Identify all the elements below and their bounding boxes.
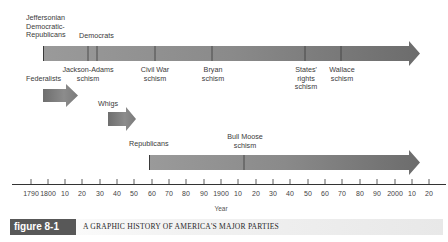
figure-title: A GRAPHIC HISTORY OF AMERICA'S MAJOR PAR…: [83, 219, 279, 235]
axis-tick-label: 10: [234, 190, 242, 197]
whigs-arrow: [108, 107, 136, 131]
axis-tick-label: 20: [78, 190, 86, 197]
axis-tick-label: 80: [182, 190, 190, 197]
axis-tick-label: 10: [61, 190, 69, 197]
republicans-bar: [149, 150, 420, 175]
label-line: schism: [295, 83, 317, 92]
axis-title: Year: [214, 205, 227, 212]
axis-tick-label: 20: [252, 190, 260, 197]
label-line: schism: [329, 75, 354, 84]
label-line: Republicans: [26, 31, 66, 40]
wallace-label: Wallace schism: [329, 66, 354, 83]
axis-tick-label: 50: [130, 190, 138, 197]
axis-tick-label: 40: [286, 190, 294, 197]
axis-tick-label: 10: [408, 190, 416, 197]
axis-tick-label: 30: [96, 190, 104, 197]
bull-moose-label: Bull Moose schism: [227, 133, 263, 150]
jackson-adams-label: Jackson-Adams schism: [62, 66, 113, 83]
axis-tick-label: 1900: [213, 190, 229, 197]
axis-tick-label: 50: [304, 190, 312, 197]
label-line: schism: [202, 75, 224, 84]
axis-tick-label: 20: [425, 190, 433, 197]
axis-tick-label: 70: [165, 190, 173, 197]
jeffersonian-label: Jeffersonian Democratic- Republicans: [26, 14, 66, 40]
axis-tick-label: 90: [200, 190, 208, 197]
states-rights-label: States' rights schism: [295, 66, 317, 92]
civil-war-label: Civil War schism: [141, 66, 169, 83]
federalists-arrow: [43, 84, 78, 107]
axis-tick-label: 60: [321, 190, 329, 197]
axis-tick-label: 1800: [40, 190, 56, 197]
axis-tick-label: 1790: [23, 190, 39, 197]
bryan-label: Bryan schism: [202, 66, 224, 83]
figure-caption: figure 8-1 A GRAPHIC HISTORY OF AMERICA'…: [10, 219, 443, 235]
label-line: schism: [141, 75, 169, 84]
axis-tick-label: 70: [338, 190, 346, 197]
axis-tick-label: 90: [373, 190, 381, 197]
label-line: schism: [227, 142, 263, 151]
year-axis: [12, 179, 446, 185]
whigs-label: Whigs: [98, 100, 118, 109]
republicans-label: Republicans: [129, 140, 169, 149]
figure-label: figure 8-1: [10, 219, 76, 235]
axis-tick-label: 2000: [387, 190, 403, 197]
label-line: schism: [62, 75, 113, 84]
axis-tick-label: 80: [356, 190, 364, 197]
axis-tick-label: 30: [269, 190, 277, 197]
axis-tick-label: 60: [148, 190, 156, 197]
federalists-label: Federalists: [26, 75, 61, 84]
democrats-bar: [43, 41, 420, 66]
axis-tick-label: 40: [113, 190, 121, 197]
democrats-label: Democrats: [79, 32, 114, 41]
